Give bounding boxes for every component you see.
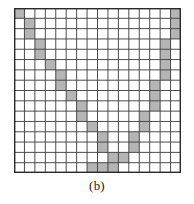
grid-shaded-cell [77, 101, 87, 111]
grid-shaded-cell [14, 8, 24, 18]
grid-shaded-cell [171, 29, 181, 39]
grid-shaded-cell [87, 163, 97, 173]
grid-container [14, 8, 181, 173]
grid-shaded-cell [77, 111, 87, 121]
grid-shaded-cell [160, 70, 170, 80]
grid-diagram [14, 8, 181, 173]
grid-shaded-cell [171, 18, 181, 28]
grid-shaded-cell [150, 91, 160, 101]
grid-shaded-cell [139, 111, 149, 121]
grid-shaded-cell [171, 8, 181, 18]
grid-shaded-cell [24, 18, 34, 28]
grid-shaded-cell [98, 163, 108, 173]
grid-shaded-cell [98, 142, 108, 152]
grid-shaded-cell [150, 101, 160, 111]
grid-shaded-cell [160, 49, 170, 59]
grid-shaded-cell [129, 142, 139, 152]
grid-shaded-cell [160, 39, 170, 49]
grid-shaded-cell [108, 152, 118, 162]
grid-shaded-cell [87, 121, 97, 131]
figure-caption: (b) [0, 178, 194, 194]
grid-shaded-cell [139, 121, 149, 131]
grid-shaded-cell [45, 60, 55, 70]
grid-shaded-cell [129, 132, 139, 142]
grid-shaded-cell [35, 39, 45, 49]
grid-shaded-cell [56, 80, 66, 90]
grid-shaded-cell [118, 152, 128, 162]
grid-shaded-cell [24, 29, 34, 39]
figure-panel: (b) [0, 0, 194, 204]
grid-shaded-cell [98, 132, 108, 142]
grid-shaded-cell [150, 80, 160, 90]
grid-shaded-cell [108, 163, 118, 173]
grid-shaded-cell [160, 60, 170, 70]
grid-shaded-cell [66, 91, 76, 101]
grid-shaded-cell [56, 70, 66, 80]
grid-shaded-cell [35, 49, 45, 59]
